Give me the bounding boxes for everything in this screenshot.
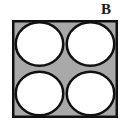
circle-packing-diagram <box>0 0 129 128</box>
figure-container: B <box>0 0 129 128</box>
circle-top-left <box>16 22 64 66</box>
circle-bottom-right <box>67 72 115 116</box>
circle-top-right <box>67 22 115 66</box>
circle-bottom-left <box>16 72 64 116</box>
